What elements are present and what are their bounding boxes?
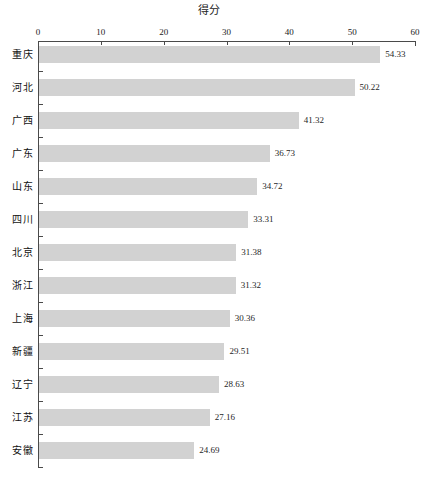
chart-title: 得分 bbox=[0, 3, 433, 17]
x-tick-label-40: 40 bbox=[285, 27, 294, 37]
y-tick bbox=[38, 467, 43, 468]
x-tick-50 bbox=[352, 41, 353, 45]
bar-value-label: 50.22 bbox=[360, 79, 380, 96]
category-label-6: 北京 bbox=[0, 244, 33, 261]
category-label-7: 浙江 bbox=[0, 277, 33, 294]
x-tick-label-0: 0 bbox=[36, 27, 41, 37]
bar bbox=[39, 178, 257, 195]
bar-value-label: 31.32 bbox=[241, 277, 261, 294]
y-tick bbox=[38, 203, 43, 204]
plot-area: 0102030405060 54.3350.2241.3236.7334.723… bbox=[38, 41, 415, 470]
bar-value-label: 31.38 bbox=[241, 244, 261, 261]
y-tick bbox=[38, 368, 43, 369]
bar bbox=[39, 79, 355, 96]
y-tick bbox=[38, 269, 43, 270]
bar-value-label: 27.16 bbox=[215, 409, 235, 426]
y-tick bbox=[38, 71, 43, 72]
bar bbox=[39, 409, 210, 426]
y-tick bbox=[38, 236, 43, 237]
bar bbox=[39, 376, 219, 393]
bar-value-label: 29.51 bbox=[229, 343, 249, 360]
bar-value-label: 54.33 bbox=[385, 46, 405, 63]
bar bbox=[39, 442, 194, 459]
bar bbox=[39, 343, 224, 360]
category-label-2: 广西 bbox=[0, 112, 33, 129]
bar-value-label: 28.63 bbox=[224, 376, 244, 393]
x-tick-20 bbox=[164, 41, 165, 45]
y-tick bbox=[38, 401, 43, 402]
chart-title-text: 得分 bbox=[198, 3, 221, 17]
bar bbox=[39, 310, 230, 327]
x-tick-30 bbox=[227, 41, 228, 45]
x-tick-label-30: 30 bbox=[222, 27, 231, 37]
bar-value-label: 36.73 bbox=[275, 145, 295, 162]
bar bbox=[39, 46, 380, 63]
bar bbox=[39, 112, 299, 129]
bar-value-label: 24.69 bbox=[199, 442, 219, 459]
bar-value-label: 33.31 bbox=[253, 211, 273, 228]
bar bbox=[39, 145, 270, 162]
bar-value-label: 41.32 bbox=[304, 112, 324, 129]
horizontal-bar-chart: 得分 0102030405060 54.3350.2241.3236.7334.… bbox=[0, 0, 433, 484]
x-tick-label-20: 20 bbox=[159, 27, 168, 37]
category-label-8: 上海 bbox=[0, 310, 33, 327]
y-tick bbox=[38, 335, 43, 336]
category-label-5: 四川 bbox=[0, 211, 33, 228]
x-tick-label-50: 50 bbox=[348, 27, 357, 37]
x-tick-10 bbox=[101, 41, 102, 45]
x-tick-40 bbox=[289, 41, 290, 45]
y-tick bbox=[38, 170, 43, 171]
x-tick-label-10: 10 bbox=[96, 27, 105, 37]
bar bbox=[39, 277, 236, 294]
bar bbox=[39, 211, 248, 228]
category-label-12: 安徽 bbox=[0, 442, 33, 459]
x-tick-label-60: 60 bbox=[411, 27, 420, 37]
y-tick bbox=[38, 104, 43, 105]
category-label-9: 新疆 bbox=[0, 343, 33, 360]
x-tick-60 bbox=[415, 41, 416, 46]
y-tick bbox=[38, 302, 43, 303]
category-label-10: 辽宁 bbox=[0, 376, 33, 393]
category-label-1: 河北 bbox=[0, 79, 33, 96]
y-tick bbox=[38, 434, 43, 435]
bar-value-label: 34.72 bbox=[262, 178, 282, 195]
category-label-4: 山东 bbox=[0, 178, 33, 195]
category-label-3: 广东 bbox=[0, 145, 33, 162]
bar-value-label: 30.36 bbox=[235, 310, 255, 327]
y-tick bbox=[38, 137, 43, 138]
bar bbox=[39, 244, 236, 261]
category-label-11: 江苏 bbox=[0, 409, 33, 426]
category-label-0: 重庆 bbox=[0, 46, 33, 63]
